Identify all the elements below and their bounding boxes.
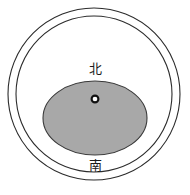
north-label: 北 xyxy=(75,62,115,75)
south-label: 南 xyxy=(75,159,115,172)
figure-canvas: 北 南 xyxy=(0,0,190,195)
center-point-marker xyxy=(92,96,99,103)
shaded-ellipse xyxy=(43,81,147,155)
